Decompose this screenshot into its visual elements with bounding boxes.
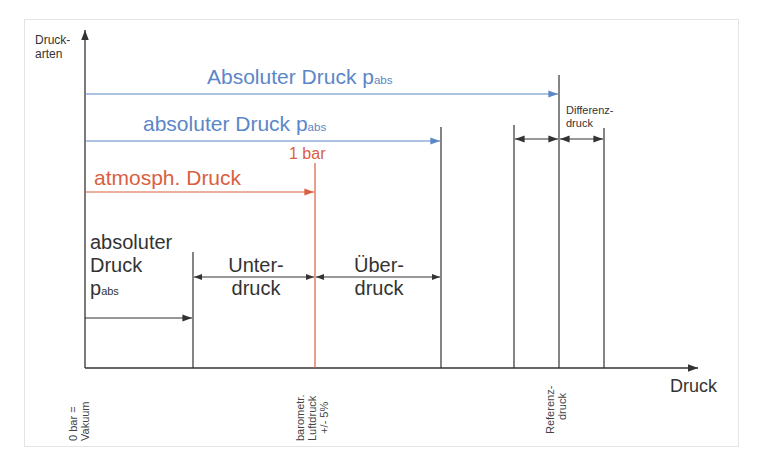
underpressure-label: Unter- druck	[220, 254, 292, 300]
x-axis-label: Druck	[670, 377, 717, 395]
absolute-left-p: p	[90, 277, 101, 299]
absolute-upper-sub: abs	[374, 74, 393, 86]
absolute-upper-main: Absoluter Druck p	[207, 65, 374, 88]
y-axis-label-line1: Druck-	[35, 33, 70, 47]
differential-line1: Differenz-	[566, 104, 613, 117]
absolute-left-line3: pabs	[90, 277, 172, 303]
absolute-left-line2: Druck	[90, 254, 172, 277]
barometric-line3: +/- 5%	[318, 395, 330, 441]
y-axis-label: Druck- arten	[35, 33, 70, 61]
underpressure-line2: druck	[220, 277, 292, 300]
reference-line1: Referenz-	[544, 386, 556, 434]
barometric-line2: Luftdruck	[306, 395, 318, 441]
vacuum-line1: 0 bar =	[67, 401, 79, 441]
overpressure-line1: Über-	[343, 254, 415, 277]
reference-line2: druck	[556, 386, 568, 434]
one-bar-label: 1 bar	[289, 146, 325, 162]
absolute-lower-sub: abs	[308, 121, 327, 133]
absolute-lower-main: absoluter Druck p	[143, 112, 308, 135]
absolute-left-abs: abs	[101, 285, 119, 297]
atmospheric-label: atmosph. Druck	[94, 167, 241, 188]
absolute-upper-label: Absoluter Druck pabs	[207, 66, 393, 87]
absolute-lower-label: absoluter Druck pabs	[143, 113, 326, 134]
y-axis-label-line2: arten	[35, 47, 70, 61]
overpressure-label: Über- druck	[343, 254, 415, 300]
vacuum-tick-label: 0 bar = Vakuum	[67, 401, 91, 441]
absolute-left-line1: absoluter	[90, 231, 172, 254]
barometric-tick-label: barometr. Luftdruck +/- 5%	[294, 395, 330, 441]
underpressure-line1: Unter-	[220, 254, 292, 277]
vacuum-line2: Vakuum	[79, 401, 91, 441]
overpressure-line2: druck	[343, 277, 415, 300]
reference-tick-label: Referenz- druck	[544, 386, 568, 434]
barometric-line1: barometr.	[294, 395, 306, 441]
differential-line2: druck	[566, 117, 613, 130]
differential-label: Differenz- druck	[566, 104, 613, 130]
absolute-left-label: absoluter Druck pabs	[90, 231, 172, 303]
